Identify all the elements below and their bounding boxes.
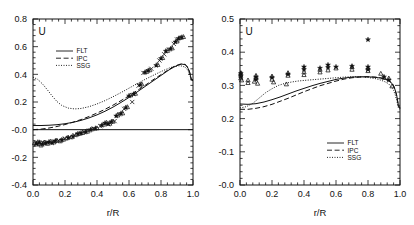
marker-cross — [172, 42, 176, 46]
x-tick-label: 0.0 — [27, 189, 40, 199]
scatter-points — [238, 37, 394, 88]
legend-label-ipc: IPC — [77, 55, 88, 62]
right-panel: 0.00.20.40.60.81.00.50.40.30.2-0.1-0.0Ur… — [207, 0, 414, 225]
x-axis-label: r/R — [314, 207, 327, 218]
legend-label-flt: FLT — [77, 47, 88, 54]
x-axis-label: r/R — [107, 207, 120, 218]
marker-star — [302, 67, 307, 72]
marker-star — [326, 65, 331, 70]
y-tick-label: -0.4 — [11, 180, 27, 190]
marker-star — [270, 75, 275, 80]
marker-cross — [157, 58, 161, 62]
x-tick-label: 0.6 — [123, 189, 136, 199]
curve-ssg — [240, 77, 400, 110]
x-tick-label: 0.8 — [155, 189, 168, 199]
y-tick-label: 0.2 — [14, 97, 27, 107]
marker-triangle — [390, 84, 394, 88]
curve-ssg — [33, 66, 193, 109]
marker-star — [366, 37, 371, 42]
figure-container: 0.00.20.40.60.81.00.80.60.40.2-0.0-0.2-0… — [0, 0, 414, 225]
y-tick-label: 0.5 — [221, 14, 234, 24]
x-tick-label: 1.0 — [187, 189, 200, 199]
marker-triangle — [272, 80, 276, 84]
x-tick-label: 0.0 — [234, 189, 247, 199]
series-experiment-cross — [36, 37, 179, 145]
legend-label-ssg: SSG — [77, 62, 91, 69]
y-tick-label: -0.2 — [11, 153, 27, 163]
x-tick-label: 0.2 — [266, 189, 279, 199]
y-axis-label: U — [38, 26, 45, 37]
y-tick-label: 0.2 — [221, 114, 234, 124]
y-tick-label: -0.1 — [218, 147, 234, 157]
y-tick-label: 0.4 — [14, 70, 27, 80]
marker-star — [334, 64, 339, 69]
curve-flt — [33, 64, 193, 125]
y-tick-label: 0.4 — [221, 47, 234, 57]
marker-cross — [130, 100, 134, 104]
y-tick-label: -0.0 — [11, 125, 27, 135]
legend-label-flt: FLT — [348, 139, 359, 146]
y-tick-label: 0.6 — [14, 42, 27, 52]
legend-label-ssg: SSG — [348, 154, 362, 161]
left-panel: 0.00.20.40.60.81.00.80.60.40.2-0.0-0.2-0… — [0, 0, 207, 225]
right-panel-plot: 0.00.20.40.60.81.00.50.40.30.2-0.1-0.0Ur… — [207, 0, 414, 225]
marker-triangle — [379, 71, 383, 75]
x-tick-label: 0.6 — [330, 189, 343, 199]
marker-star — [286, 72, 291, 77]
x-tick-label: 0.4 — [298, 189, 311, 199]
y-tick-label: 0.8 — [14, 14, 27, 24]
marker-star — [366, 67, 371, 72]
axis-ticks — [33, 19, 193, 185]
x-tick-label: 1.0 — [394, 189, 407, 199]
y-axis-label: U — [245, 26, 252, 37]
curve-flt — [240, 77, 400, 108]
left-panel-plot: 0.00.20.40.60.81.00.80.60.40.2-0.0-0.2-0… — [0, 0, 207, 225]
plot-frame — [33, 19, 193, 185]
y-tick-label: 0.3 — [221, 81, 234, 91]
legend: FLTIPCSSG — [56, 47, 90, 68]
legend-label-ipc: IPC — [348, 147, 359, 154]
y-tick-label: -0.0 — [218, 180, 234, 190]
x-tick-label: 0.4 — [91, 189, 104, 199]
x-tick-label: 0.8 — [362, 189, 375, 199]
legend: FLTIPCSSG — [327, 139, 361, 160]
x-tick-label: 0.2 — [59, 189, 72, 199]
curve-ipc — [240, 77, 400, 110]
series-experiment-star — [238, 37, 391, 82]
model-curves — [240, 77, 400, 110]
